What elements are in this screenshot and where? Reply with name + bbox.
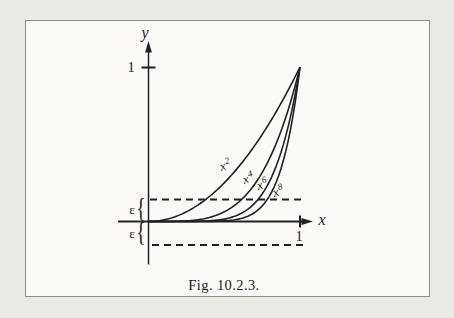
y-axis-label: y [141,25,148,41]
lower-epsilon-brace: { [136,219,145,246]
x-axis-label: x [318,212,325,228]
upper-epsilon-label: ε [129,203,135,217]
x-tick-label-1: 1 [295,229,302,244]
figure-caption: Fig. 10.2.3. [188,278,259,293]
y-axis-arrow-icon [145,41,152,53]
lower-epsilon-label: ε [129,227,135,241]
x-axis-arrow-icon [302,218,314,225]
scanned-page: y x 1 1 ε { ε { x2 x4 x6 x8 Fig. 10.2.3. [0,0,454,318]
y-tick-label-1: 1 [127,60,134,75]
